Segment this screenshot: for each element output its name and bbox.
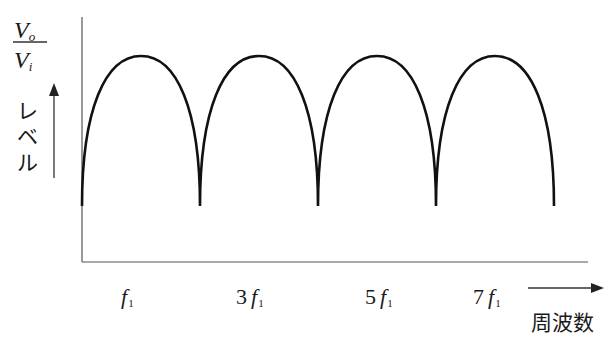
x-tick-5f1: 5f1 (365, 284, 393, 309)
y-axis-label: Vo Vi (13, 17, 47, 74)
x-axis-label: 周波数 (531, 311, 594, 335)
svg-text:7f1: 7f1 (473, 284, 501, 309)
svg-text:5f1: 5f1 (365, 284, 393, 309)
level-char-1: レ (17, 99, 38, 123)
x-tick-f1: f1 (121, 284, 134, 309)
frequency-arrow-icon (591, 283, 604, 293)
svg-text:Vi: Vi (14, 47, 33, 74)
svg-text:f1: f1 (121, 284, 134, 309)
level-char-2: ベ (17, 125, 38, 149)
response-curve (82, 56, 554, 206)
x-tick-3f1: 3f1 (236, 284, 264, 309)
level-arrow-icon (49, 83, 59, 96)
x-tick-7f1: 7f1 (473, 284, 501, 309)
svg-text:Vo: Vo (14, 17, 36, 44)
level-char-3: ル (17, 151, 38, 175)
frequency-response-diagram: Vo Vi レ ベ ル f1 3f1 5f1 7f1 周波数 (0, 0, 608, 345)
svg-text:3f1: 3f1 (236, 284, 264, 309)
